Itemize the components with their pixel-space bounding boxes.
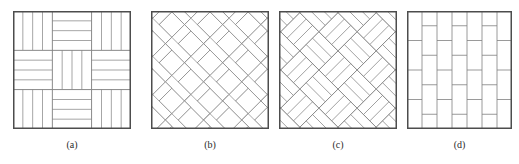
panel-herringbone bbox=[151, 11, 269, 129]
parquet-pattern-figure: (a) (b) (c) (d) bbox=[0, 0, 519, 164]
herringbone-svg bbox=[151, 11, 269, 129]
panel-running-bond bbox=[407, 11, 512, 129]
panel-basketweave bbox=[13, 11, 131, 129]
running-bond-svg bbox=[407, 11, 512, 129]
caption-b: (b) bbox=[151, 139, 269, 151]
caption-d: (d) bbox=[407, 139, 512, 151]
panel-diagonal-basketweave bbox=[279, 11, 397, 129]
basketweave-svg bbox=[13, 11, 131, 129]
diagonal-basketweave-svg bbox=[279, 11, 397, 129]
caption-c: (c) bbox=[279, 139, 397, 151]
caption-a: (a) bbox=[13, 139, 131, 151]
